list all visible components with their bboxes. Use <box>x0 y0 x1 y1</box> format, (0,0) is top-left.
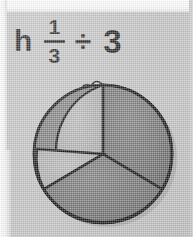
worksheet-page: h 1 3 ÷ 3 <box>0 0 193 237</box>
fraction-bar <box>44 40 65 43</box>
page-left-margin-lower <box>0 150 11 237</box>
fraction-denominator: 3 <box>46 45 62 66</box>
question-item-label: h <box>14 26 32 56</box>
page-right-edge <box>189 0 193 237</box>
divisor-value: 3 <box>103 25 121 58</box>
fraction-numerator: 1 <box>46 16 62 37</box>
page-top-margin <box>0 0 193 12</box>
division-operator-symbol: ÷ <box>75 26 91 56</box>
pie-fraction-diagram <box>26 74 182 232</box>
fraction-one-third: 1 3 <box>44 16 65 66</box>
question-expression: h 1 3 ÷ 3 <box>14 13 122 69</box>
